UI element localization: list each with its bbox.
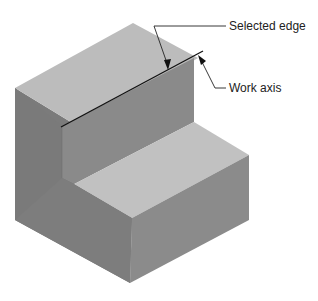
work-axis-label: Work axis — [229, 82, 281, 94]
selected-edge-label: Selected edge — [229, 20, 306, 32]
stepped-block-diagram — [0, 0, 318, 301]
work-axis-arrowhead — [198, 55, 206, 65]
